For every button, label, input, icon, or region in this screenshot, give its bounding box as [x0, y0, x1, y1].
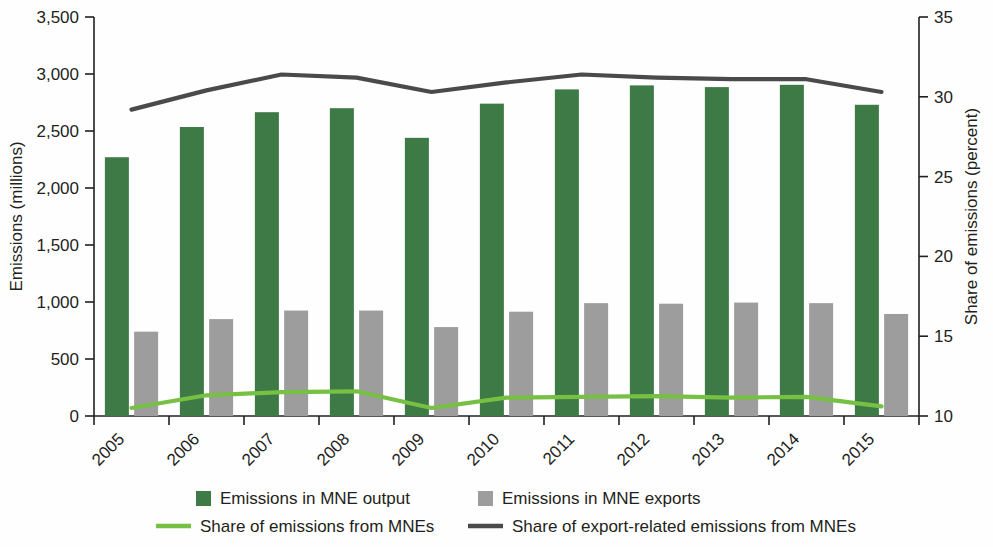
bar-mne-output: [555, 89, 579, 416]
legend-label: Emissions in MNE output: [220, 489, 410, 508]
x-category-label: 2005: [88, 429, 128, 469]
chart-container: 05001,0001,5002,0002,5003,0003,500 10152…: [0, 0, 993, 547]
left-tick-label: 3,000: [36, 65, 79, 84]
x-category-label: 2006: [163, 429, 203, 469]
right-axis-group: 101520253035: [919, 8, 953, 426]
bar-mne-output: [780, 85, 804, 416]
bar-mne-exports: [584, 303, 608, 416]
x-category-label: 2010: [463, 429, 503, 469]
right-tick-label: 15: [934, 327, 953, 346]
line-series-mne-share: [132, 391, 882, 408]
bar-mne-output: [405, 138, 429, 416]
left-tick-label: 1,500: [36, 236, 79, 255]
legend-swatch: [196, 491, 211, 506]
x-category-label: 2012: [613, 429, 653, 469]
left-tick-label: 0: [70, 407, 79, 426]
bar-mne-exports: [209, 319, 233, 416]
right-tick-label: 10: [934, 407, 953, 426]
line-series-export-related-share: [132, 75, 882, 110]
bar-mne-output: [255, 112, 279, 416]
x-category-label: 2014: [763, 429, 803, 469]
right-tick-label: 25: [934, 168, 953, 187]
x-category-label: 2011: [539, 429, 578, 468]
left-tick-label: 3,500: [36, 8, 79, 27]
bar-mne-output: [855, 105, 879, 416]
bar-mne-exports: [284, 311, 308, 416]
emissions-combo-chart: 05001,0001,5002,0002,5003,0003,500 10152…: [0, 0, 993, 547]
legend-label: Emissions in MNE exports: [502, 489, 700, 508]
left-tick-label: 1,000: [36, 293, 79, 312]
bar-mne-exports: [884, 314, 908, 416]
x-category-label: 2015: [838, 429, 878, 469]
chart-legend: Emissions in MNE outputEmissions in MNE …: [156, 489, 856, 536]
bar-mne-output: [105, 157, 129, 416]
bar-mne-output: [705, 87, 729, 416]
bar-mne-exports: [659, 304, 683, 416]
x-category-label: 2008: [313, 429, 353, 469]
x-axis-group: 2005200620072008200920102011201220132014…: [88, 416, 919, 470]
bar-mne-output: [330, 108, 354, 416]
bar-mne-output: [480, 104, 504, 416]
left-tick-label: 2,500: [36, 122, 79, 141]
right-tick-label: 30: [934, 88, 953, 107]
left-axis-ticks: 05001,0001,5002,0002,5003,0003,500: [36, 8, 94, 426]
right-axis-title: Share of emissions (percent): [962, 108, 981, 325]
right-tick-label: 20: [934, 247, 953, 266]
left-tick-label: 500: [51, 350, 79, 369]
legend-label: Share of emissions from MNEs: [200, 517, 434, 536]
x-category-label: 2013: [688, 429, 728, 469]
left-axis-title: Emissions (millions): [7, 141, 26, 291]
legend-swatch: [478, 491, 493, 506]
x-axis-category-labels: 2005200620072008200920102011201220132014…: [88, 429, 878, 469]
left-axis-group: 05001,0001,5002,0002,5003,0003,500: [36, 8, 94, 426]
left-tick-label: 2,000: [36, 179, 79, 198]
bar-mne-exports: [509, 312, 533, 416]
x-axis-ticks: [94, 416, 919, 425]
bar-mne-exports: [434, 327, 458, 416]
bar-mne-output: [630, 85, 654, 416]
x-category-label: 2009: [388, 429, 428, 469]
bar-mne-exports: [359, 311, 383, 416]
x-category-label: 2007: [238, 429, 278, 469]
bar-mne-output: [180, 127, 204, 416]
legend-label: Share of export-related emissions from M…: [512, 517, 856, 536]
right-tick-label: 35: [934, 8, 953, 27]
right-axis-ticks: 101520253035: [919, 8, 953, 426]
